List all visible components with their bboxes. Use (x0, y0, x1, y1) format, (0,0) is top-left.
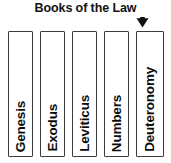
books-of-the-law-diagram: Books of the Law Genesis Exodus Leviticu… (0, 0, 171, 163)
book-box-row: Genesis Exodus Leviticus Numbers Deutero… (0, 31, 171, 158)
book-box-numbers[interactable]: Numbers (104, 31, 129, 157)
book-label-container: Genesis (9, 32, 32, 156)
book-label: Exodus (46, 104, 60, 152)
book-label-container: Numbers (105, 32, 128, 156)
book-label: Deuteronomy (143, 67, 157, 152)
arrow-down-icon (134, 15, 151, 27)
diagram-title: Books of the Law (0, 1, 171, 15)
book-label: Genesis (14, 101, 28, 152)
book-label-container: Leviticus (73, 32, 96, 156)
book-box-leviticus[interactable]: Leviticus (72, 31, 97, 157)
book-label: Numbers (110, 95, 124, 152)
book-box-deuteronomy[interactable]: Deuteronomy (136, 31, 164, 157)
book-label-container: Exodus (41, 32, 64, 156)
book-label-container: Deuteronomy (137, 32, 163, 156)
book-box-genesis[interactable]: Genesis (8, 31, 33, 157)
book-box-exodus[interactable]: Exodus (40, 31, 65, 157)
book-label: Leviticus (78, 95, 92, 152)
